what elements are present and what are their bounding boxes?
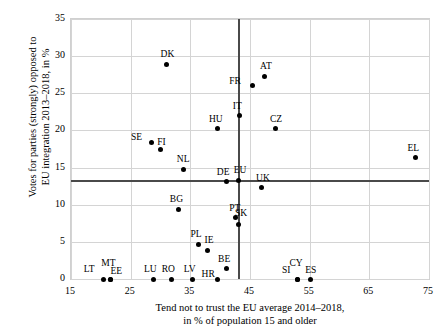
data-point-marker	[295, 277, 300, 282]
data-point-marker	[250, 83, 255, 88]
data-point-label: DE	[217, 168, 230, 178]
data-point-marker	[176, 207, 181, 212]
x-tick-label: 45	[244, 286, 254, 296]
data-point-label: BE	[218, 255, 230, 265]
reference-line-horizontal	[71, 180, 429, 182]
data-point-marker	[236, 222, 241, 227]
data-point-label: SK	[235, 209, 247, 219]
y-axis-title-line-2: EU integration 2013–2018, in %	[39, 2, 52, 232]
data-point-label: PL	[191, 230, 202, 240]
data-point-marker	[224, 179, 229, 184]
gridline-vertical	[131, 19, 132, 279]
y-axis-title-line-1: Votes for parties (strongly) opposed to	[26, 2, 39, 232]
data-point-label: NL	[177, 155, 190, 165]
x-axis-title: Tend not to trust the EU average 2014–20…	[70, 301, 430, 327]
data-point-label: AT	[260, 62, 272, 72]
data-point-label: UK	[256, 174, 270, 184]
data-point-label: RO	[162, 265, 175, 275]
data-point-marker	[215, 277, 220, 282]
data-point-label: EL	[407, 144, 419, 154]
data-point-marker	[224, 266, 229, 271]
data-point-label: EU	[234, 166, 247, 176]
data-point-label: CZ	[270, 115, 282, 125]
data-point-label: LT	[84, 265, 95, 275]
data-point-marker	[164, 62, 169, 67]
x-axis-title-line-1: Tend not to trust the EU average 2014–20…	[70, 301, 430, 314]
y-axis-title: Votes for parties (strongly) opposed to …	[26, 2, 52, 232]
data-point-marker	[181, 167, 186, 172]
data-point-marker	[237, 113, 242, 118]
data-point-label: IE	[205, 236, 214, 246]
gridline-vertical	[310, 19, 311, 279]
data-point-marker	[205, 248, 210, 253]
data-point-label: FI	[157, 138, 165, 148]
data-point-marker	[259, 185, 264, 190]
data-point-label: DK	[161, 50, 175, 60]
y-tick-label: 5	[44, 236, 65, 246]
data-point-marker	[169, 277, 174, 282]
data-point-label: EE	[111, 267, 123, 277]
x-tick-label: 65	[363, 286, 373, 296]
x-tick-label: 25	[125, 286, 135, 296]
x-tick-label: 15	[65, 286, 75, 296]
data-point-marker	[262, 74, 267, 79]
data-point-label: SE	[131, 133, 142, 143]
data-point-marker	[236, 178, 241, 183]
x-tick-label: 35	[184, 286, 194, 296]
gridline-vertical	[190, 19, 191, 279]
data-point-label: LU	[144, 265, 157, 275]
data-point-marker	[101, 277, 106, 282]
data-point-marker	[190, 277, 195, 282]
plot-area: DKATFRITCZHUSEFIELNLDEEUUKBGPTSKPLIEBELT…	[70, 18, 430, 280]
data-point-marker	[149, 140, 154, 145]
data-point-marker	[413, 155, 418, 160]
data-point-label: HU	[209, 115, 223, 125]
scatter-chart-figure: DKATFRITCZHUSEFIELNLDEEUUKBGPTSKPLIEBELT…	[0, 0, 445, 332]
data-point-label: HR	[202, 270, 215, 280]
data-point-label: CY	[290, 259, 303, 269]
data-point-marker	[196, 242, 201, 247]
data-point-marker	[151, 277, 156, 282]
y-tick-label: 0	[44, 273, 65, 283]
x-tick-label: 55	[304, 286, 314, 296]
data-point-marker	[308, 277, 313, 282]
x-axis-tick-labels: 15253545556575	[70, 286, 430, 300]
gridline-vertical	[250, 19, 251, 279]
x-axis-title-line-2: in % of population 15 and older	[70, 314, 430, 327]
data-point-label: IT	[233, 102, 242, 112]
data-point-label: BG	[170, 195, 183, 205]
data-point-marker	[108, 277, 113, 282]
reference-line-vertical	[238, 19, 240, 279]
gridline-vertical	[71, 19, 72, 279]
gridline-vertical	[369, 19, 370, 279]
gridline-horizontal	[71, 279, 429, 280]
x-tick-label: 75	[423, 286, 433, 296]
data-point-label: ES	[305, 266, 316, 276]
data-point-label: LV	[184, 265, 196, 275]
data-point-label: FR	[229, 77, 241, 87]
gridline-vertical	[429, 19, 430, 279]
